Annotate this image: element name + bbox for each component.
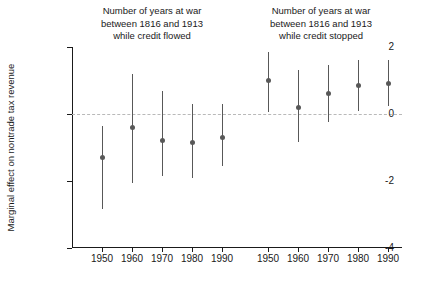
y-tick-mark (67, 248, 72, 249)
y-tick-label: 0 (388, 109, 394, 119)
data-point (386, 81, 391, 86)
data-point (130, 125, 135, 130)
data-point (160, 138, 165, 143)
x-tick-mark (268, 247, 269, 252)
y-tick-label: -4 (385, 243, 394, 253)
data-point (326, 91, 331, 96)
y-tick-mark (67, 114, 72, 115)
data-point (220, 135, 225, 140)
x-tick-mark (132, 247, 133, 252)
group-title-credit-flowed: Number of years at war between 1816 and … (72, 5, 232, 43)
x-tick-label: 1960 (121, 253, 143, 264)
x-tick-mark (328, 247, 329, 252)
y-axis-line (72, 47, 73, 248)
x-tick-label: 1970 (317, 253, 339, 264)
x-tick-label: 1970 (151, 253, 173, 264)
group-title-credit-stopped: Number of years at war between 1816 and … (236, 5, 406, 43)
x-tick-label: 1980 (347, 253, 369, 264)
x-tick-mark (358, 247, 359, 252)
error-bar (102, 126, 103, 210)
zero-reference-line (72, 114, 402, 115)
data-point (266, 78, 271, 83)
y-tick-mark (67, 181, 72, 182)
data-point (190, 140, 195, 145)
y-tick-mark (67, 47, 72, 48)
error-bar (162, 91, 163, 176)
x-tick-label: 1950 (257, 253, 279, 264)
x-tick-mark (388, 247, 389, 252)
x-tick-mark (222, 247, 223, 252)
y-tick-label: -2 (385, 176, 394, 186)
data-point (356, 83, 361, 88)
y-tick-label: 2 (388, 42, 394, 52)
x-tick-label: 1960 (287, 253, 309, 264)
x-tick-label: 1950 (91, 253, 113, 264)
x-tick-label: 1990 (377, 253, 399, 264)
x-tick-label: 1980 (181, 253, 203, 264)
x-tick-mark (298, 247, 299, 252)
chart-container: Number of years at war between 1816 and … (0, 0, 429, 298)
data-point (296, 105, 301, 110)
plot-area: 20-2-4 195019601970198019901950196019701… (72, 47, 402, 248)
data-point (100, 155, 105, 160)
x-axis-line (72, 247, 402, 248)
y-axis-title: Marginal effect on nontrade tax revenue (4, 47, 18, 248)
x-tick-mark (102, 247, 103, 252)
x-tick-label: 1990 (211, 253, 233, 264)
x-tick-mark (192, 247, 193, 252)
x-tick-mark (162, 247, 163, 252)
